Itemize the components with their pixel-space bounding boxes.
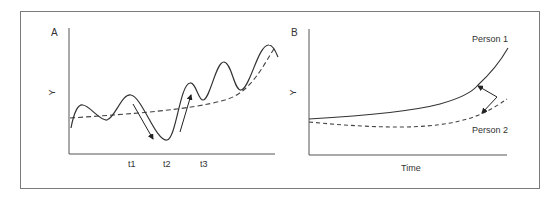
panel-b-y-axis-label: Y [289,89,298,95]
figure-graphics [0,0,560,201]
person-1-line [309,48,508,119]
panel-b-x-axis-label: Time [401,164,421,173]
panel-a-tick-t1: t1 [128,160,136,169]
person-1-label: Person 1 [472,35,508,44]
panel-a-axes [69,28,275,154]
panel-b-label: B [291,28,298,38]
panel-b-axes [309,29,507,155]
panel-a-label: A [51,28,58,38]
person-2-label: Person 2 [472,126,508,135]
panel-a-up-arrow [180,95,191,132]
panel-a-y-axis-label: Y [48,89,57,95]
person-2-line [309,99,507,127]
panel-a-oscillating-line [71,45,278,140]
panel-a-tick-t2: t2 [163,160,171,169]
panel-a-trend-line [70,47,275,118]
panel-b-comparison-arrows [478,86,497,113]
panel-a-tick-t3: t3 [200,160,208,169]
